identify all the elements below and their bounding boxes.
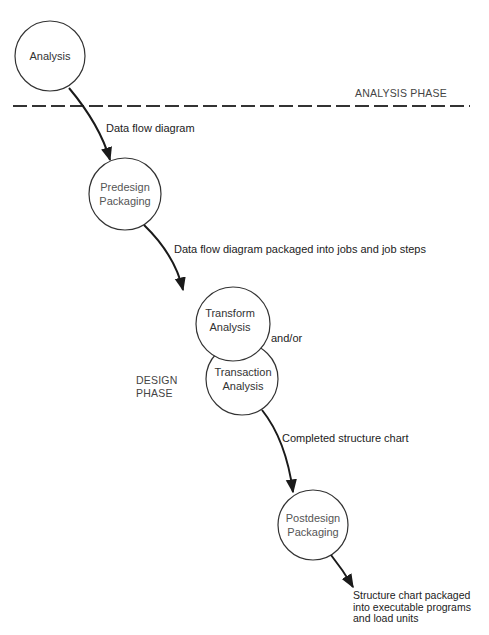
edge-label-data-flow-diagram: Data flow diagram — [106, 121, 195, 135]
predesign-line1: Predesign — [99, 180, 150, 194]
node-transaction-label: Transaction Analysis — [214, 365, 271, 393]
edge-label-packaged-jobs: Data flow diagram packaged into jobs and… — [174, 242, 426, 256]
node-transform-label: Transform Analysis — [205, 306, 255, 334]
design-phase-line2: PHASE — [136, 387, 177, 400]
edge-label-and-or: and/or — [271, 331, 302, 345]
node-analysis-label: Analysis — [30, 49, 71, 63]
edge-label-completed-structure-chart: Completed structure chart — [282, 431, 409, 445]
postdesign-line1: Postdesign — [286, 511, 340, 525]
predesign-line2: Packaging — [99, 194, 150, 208]
edge-transaction-to-postdesign — [262, 410, 293, 492]
transaction-line1: Transaction — [214, 365, 271, 379]
transform-line2: Analysis — [205, 320, 255, 334]
edge-analysis-to-predesign — [69, 88, 110, 160]
edge-postdesign-output — [331, 555, 353, 587]
analysis-text: Analysis — [30, 50, 71, 62]
node-predesign-label: Predesign Packaging — [99, 180, 150, 208]
design-phase-label: DESIGN PHASE — [136, 374, 177, 400]
transform-line1: Transform — [205, 306, 255, 320]
output-line3: and load units — [353, 613, 471, 625]
postdesign-line2: Packaging — [286, 525, 340, 539]
output-line1: Structure chart packaged — [353, 590, 471, 602]
edge-predesign-to-transform — [144, 225, 183, 290]
design-phase-line1: DESIGN — [136, 374, 177, 387]
analysis-phase-label: ANALYSIS PHASE — [355, 87, 447, 100]
edge-label-output: Structure chart packaged into executable… — [353, 590, 471, 625]
transaction-line2: Analysis — [214, 379, 271, 393]
node-postdesign-label: Postdesign Packaging — [286, 511, 340, 539]
